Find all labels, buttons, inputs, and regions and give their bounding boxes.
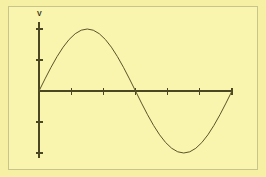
plot-canvas <box>0 0 266 177</box>
sine-wave-figure: V <box>0 0 266 177</box>
y-axis-label: V <box>33 10 45 24</box>
